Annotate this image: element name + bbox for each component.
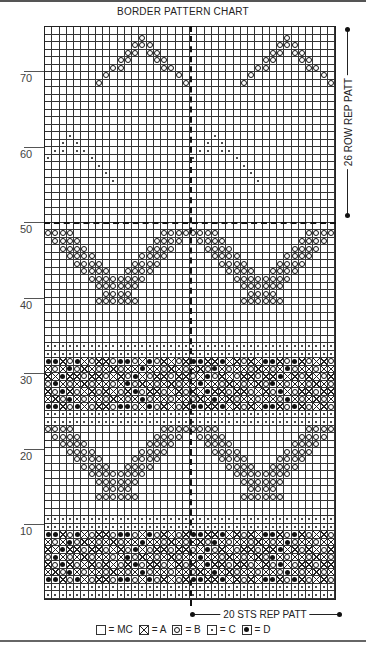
grid-cell: [328, 321, 335, 329]
grid-cell: [226, 336, 233, 344]
grid-cell: [176, 298, 183, 306]
grid-cell: [321, 448, 328, 456]
grid-cell: [89, 501, 96, 509]
grid-cell: [60, 140, 67, 148]
grid-cell: [219, 591, 226, 599]
grid-cell: [125, 441, 132, 449]
grid-cell: [270, 87, 277, 95]
grid-cell: [45, 396, 52, 404]
grid-cell: [161, 65, 168, 73]
grid-cell: [161, 110, 168, 118]
grid-cell: [299, 366, 306, 374]
grid-cell: [306, 403, 313, 411]
grid-cell: [161, 411, 168, 419]
grid-cell: [197, 321, 204, 329]
grid-cell: [168, 117, 175, 125]
grid-cell: [313, 178, 320, 186]
grid-cell: [125, 132, 132, 140]
grid-cell: [52, 27, 59, 35]
grid-cell: [103, 561, 110, 569]
grid-cell: [118, 366, 125, 374]
grid-cell: [110, 471, 117, 479]
grid-cell: [212, 441, 219, 449]
grid-cell: [248, 464, 255, 472]
grid-cell: [226, 426, 233, 434]
grid-cell: [197, 524, 204, 532]
grid-cell: [277, 80, 284, 88]
grid-cell: [205, 72, 212, 80]
grid-cell: [60, 456, 67, 464]
grid-cell: [306, 170, 313, 178]
grid-cell: [96, 343, 103, 351]
grid-cell: [52, 373, 59, 381]
grid-cell: [241, 569, 248, 577]
grid-cell: [299, 388, 306, 396]
grid-cell: [81, 110, 88, 118]
grid-cell: [270, 260, 277, 268]
grid-cell: [74, 464, 81, 472]
grid-cell: [313, 441, 320, 449]
grid-cell: [103, 351, 110, 359]
grid-cell: [147, 433, 154, 441]
grid-cell: [96, 208, 103, 216]
grid-cell: [45, 343, 52, 351]
grid-cell: [263, 313, 270, 321]
grid-cell: [328, 584, 335, 592]
grid-cell: [176, 591, 183, 599]
grid-cell: [139, 162, 146, 170]
grid-cell: [67, 381, 74, 389]
grid-cell: [306, 539, 313, 547]
grid-cell: [45, 208, 52, 216]
grid-cell: [161, 57, 168, 65]
grid-cell: [176, 381, 183, 389]
grid-cell: [284, 245, 291, 253]
grid-cell: [132, 305, 139, 313]
grid-cell: [241, 178, 248, 186]
grid-cell: [284, 268, 291, 276]
grid-cell: [52, 35, 59, 43]
grid-cell: [67, 80, 74, 88]
grid-cell: [139, 396, 146, 404]
grid-cell: [96, 554, 103, 562]
row-repeat-label: 26 ROW REP PATT: [343, 75, 354, 169]
grid-cell: [183, 516, 190, 524]
grid-cell: [212, 321, 219, 329]
grid-cell: [212, 110, 219, 118]
grid-cell: [110, 230, 117, 238]
grid-cell: [328, 35, 335, 43]
grid-cell: [154, 546, 161, 554]
grid-cell: [321, 208, 328, 216]
grid-cell: [110, 411, 117, 419]
grid-cell: [60, 388, 67, 396]
grid-cell: [299, 253, 306, 261]
grid-cell: [183, 155, 190, 163]
grid-cell: [52, 584, 59, 592]
grid-cell: [234, 426, 241, 434]
grid-cell: [45, 509, 52, 517]
grid-cell: [154, 531, 161, 539]
grid-cell: [248, 486, 255, 494]
grid-cell: [60, 230, 67, 238]
grid-cell: [89, 366, 96, 374]
grid-cell: [168, 479, 175, 487]
grid-cell: [306, 117, 313, 125]
grid-cell: [52, 42, 59, 50]
grid-cell: [226, 366, 233, 374]
grid-cell: [125, 275, 132, 283]
grid-cell: [74, 65, 81, 73]
grid-cell: [313, 27, 320, 35]
grid-cell: [306, 95, 313, 103]
grid-cell: [103, 80, 110, 88]
grid-cell: [96, 456, 103, 464]
grid-cell: [284, 185, 291, 193]
grid-cell: [255, 125, 262, 133]
grid-cell: [132, 208, 139, 216]
grid-cell: [263, 87, 270, 95]
grid-cell: [52, 193, 59, 201]
grid-cell: [132, 155, 139, 163]
grid-cell: [81, 185, 88, 193]
grid-cell: [176, 178, 183, 186]
grid-cell: [241, 479, 248, 487]
grid-cell: [161, 479, 168, 487]
grid-cell: [52, 147, 59, 155]
